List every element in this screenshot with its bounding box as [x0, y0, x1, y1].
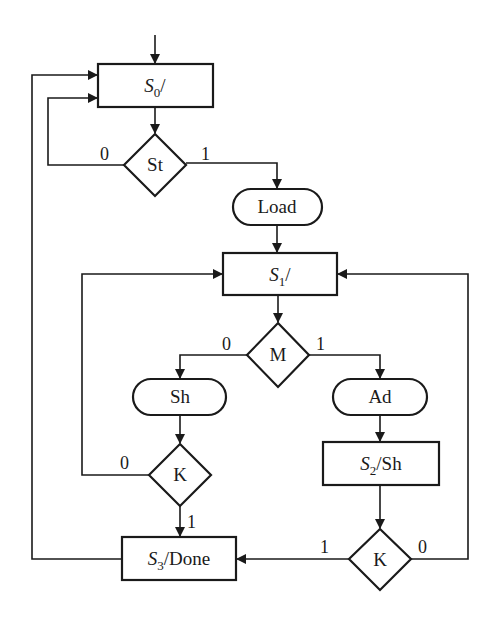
state-s3: S3/Done	[122, 537, 236, 580]
arrow-k-0-to-s1	[82, 274, 222, 475]
branch-label-1: 1	[316, 334, 325, 354]
arrow-k2-0-to-s1	[338, 274, 468, 559]
branch-label-0: 0	[100, 144, 109, 164]
decision-k-right-label: K	[373, 549, 387, 570]
decision-st-label: St	[147, 154, 164, 175]
branch-label-1: 1	[320, 537, 329, 557]
output-ad: Ad	[333, 379, 427, 415]
decision-k-left-label: K	[173, 464, 187, 485]
branch-label-0: 0	[120, 453, 129, 473]
output-ad-label: Ad	[368, 386, 392, 407]
branch-label-1: 1	[201, 144, 210, 164]
arrow-st-1-to-load	[186, 163, 277, 188]
branch-label-1: 1	[187, 512, 196, 532]
asm-chart: S0/ St 0 1 Load S1/ M 0 1 Sh Ad K 0 1	[0, 0, 494, 617]
state-s2: S2/Sh	[323, 442, 439, 485]
output-load-label: Load	[257, 196, 297, 217]
branch-label-0: 0	[222, 334, 231, 354]
branch-label-0: 0	[418, 537, 427, 557]
arrow-m-1-to-ad	[309, 355, 380, 378]
state-s0: S0/	[98, 64, 213, 107]
decision-m-label: M	[270, 344, 287, 365]
output-sh: Sh	[133, 379, 226, 415]
state-s1: S1/	[223, 253, 337, 295]
output-sh-label: Sh	[170, 386, 191, 407]
arrow-m-0-to-sh	[180, 355, 248, 378]
output-load: Load	[233, 189, 322, 225]
decision-k-left: K 0 1	[120, 444, 211, 532]
